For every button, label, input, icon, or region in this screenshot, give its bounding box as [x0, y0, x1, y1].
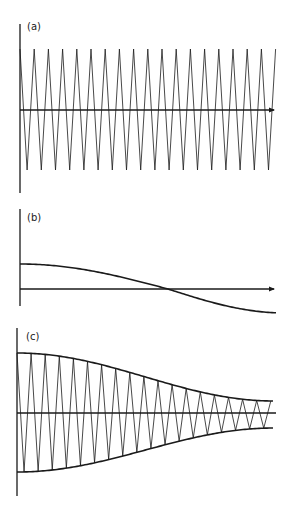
panel-c-upper-envelope — [17, 353, 273, 401]
modulation-diagram: (a) (b) (c) — [0, 0, 292, 507]
panel-a: (a) — [20, 21, 276, 193]
panel-c: (c) — [17, 328, 276, 496]
panel-c-lower-envelope — [17, 428, 273, 472]
panel-a-label: (a) — [27, 21, 41, 32]
panel-b-label: (b) — [27, 212, 41, 223]
panel-b: (b) — [20, 209, 276, 313]
panel-c-label: (c) — [26, 331, 39, 342]
